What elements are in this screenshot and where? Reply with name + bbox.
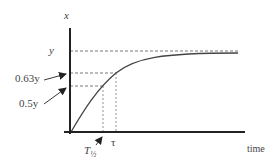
- response-diagram: [0, 0, 277, 168]
- 50-percent-label: 0.5y: [19, 98, 38, 109]
- y-axis-label: x: [64, 10, 69, 21]
- x-axis-label: time: [247, 144, 265, 154]
- half-life-label: T½: [84, 145, 96, 159]
- final-value-label: y: [49, 45, 54, 56]
- 50-percent-arrow: [44, 88, 66, 104]
- half-life-arrow: [96, 137, 102, 145]
- half-life-label-sub: ½: [90, 150, 96, 159]
- response-curve: [71, 53, 238, 132]
- 63-percent-arrow: [44, 74, 66, 80]
- tau-label: τ: [111, 137, 115, 148]
- 63-percent-label: 0.63y: [15, 73, 40, 84]
